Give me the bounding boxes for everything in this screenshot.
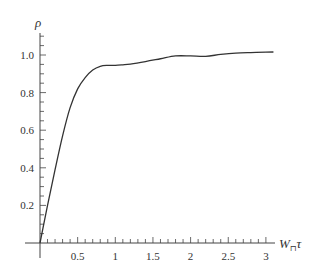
- x-axis: 0.511.522.53: [25, 237, 275, 262]
- x-tick-label: 3: [263, 250, 269, 262]
- y-tick-label: 0.4: [20, 162, 34, 174]
- x-tick-label: 2.5: [221, 250, 235, 262]
- y-tick-label: 0.6: [20, 124, 34, 136]
- data-line: [40, 52, 273, 243]
- x-tick-label: 1: [113, 250, 119, 262]
- y-tick-label: 0.2: [20, 199, 34, 211]
- line-chart: 0.20.40.60.81.0 0.511.522.53 ρ W⊓τ: [0, 0, 330, 273]
- y-axis-label: ρ: [34, 15, 41, 30]
- y-tick-label: 0.8: [20, 87, 34, 99]
- x-tick-label: 0.5: [71, 250, 85, 262]
- x-tick-label: 1.5: [146, 250, 160, 262]
- x-axis-label: W⊓τ: [279, 236, 303, 253]
- y-axis: 0.20.40.60.81.0: [20, 33, 46, 258]
- x-tick-label: 2: [188, 250, 194, 262]
- y-tick-label: 1.0: [20, 49, 34, 61]
